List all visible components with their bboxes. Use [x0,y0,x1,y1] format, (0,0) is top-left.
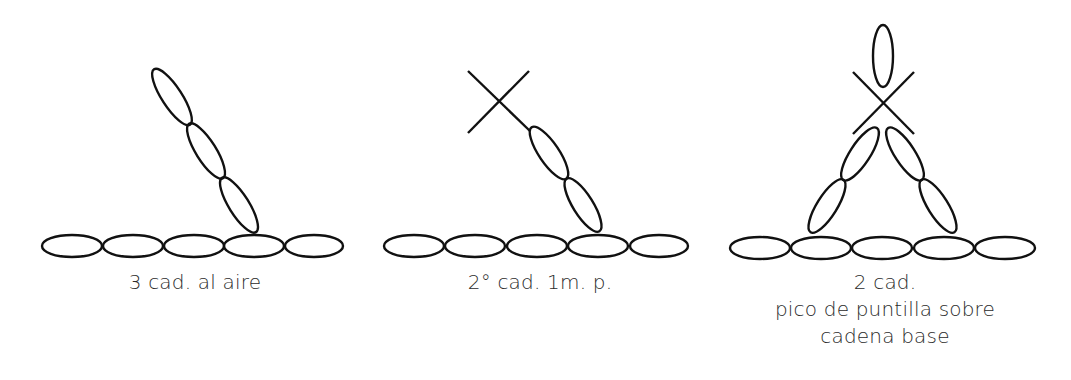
caption-line: 3 cad. al aire [40,269,350,296]
base-chain [42,235,343,257]
panel-1-caption: 3 cad. al aire [40,269,350,296]
panel-3-diagram [730,25,1035,259]
panel-1-diagram [42,64,343,257]
caption-line: 2 cad. [730,269,1040,296]
right-rising-chain [880,123,963,238]
vertical-chain-icon [873,25,893,87]
panel-2-diagram [384,71,688,257]
base-chain [730,237,1035,259]
panel-3-caption: 2 cad. pico de puntilla sobre cadena bas… [730,269,1040,350]
caption-line: pico de puntilla sobre [730,296,1040,323]
rising-chain [146,64,265,238]
single-crochet-x-icon [853,72,914,134]
base-chain [384,235,688,257]
left-rising-chain [802,123,885,238]
caption-line: 2° cad. 1m. p. [385,269,695,296]
caption-line: cadena base [730,323,1040,350]
rising-chain [523,122,608,237]
panel-2-caption: 2° cad. 1m. p. [385,269,695,296]
single-crochet-x-icon [468,71,530,133]
